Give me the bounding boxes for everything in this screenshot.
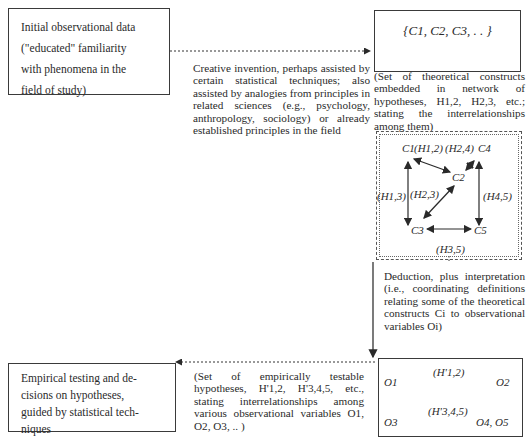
node-c5: C5 [474, 224, 487, 236]
hyp-h24: (H2,4) [445, 142, 474, 154]
node-c2: C2 [452, 171, 465, 183]
deduction-label: Deduction, plus interpretation (i.e., co… [384, 270, 525, 332]
node-c3: C3 [411, 224, 424, 236]
hyp-h35: (H3,5) [436, 243, 465, 255]
node-c4: C4 [478, 142, 491, 154]
hyp-h12: (H1,2) [414, 142, 443, 154]
obs-o45: O4, O5 [476, 416, 508, 428]
initial-data-box: Initial observational data ("educated" f… [8, 8, 170, 95]
empirical-testing-box: Empirical testing and de- cisions on hyp… [8, 363, 176, 432]
empirical-testing-text: Empirical testing and de- cisions on hyp… [9, 364, 175, 438]
hyp-h45: (H4,5) [483, 190, 512, 202]
node-c1: C1 [402, 142, 415, 154]
obs-o1: O1 [384, 376, 397, 388]
initial-data-text: Initial observational data ("educated" f… [9, 9, 169, 101]
obs-o2: O2 [496, 376, 509, 388]
constructs-set-label: {C1, C2, C3, . . } [375, 23, 520, 39]
hyp-h13: (H1,3) [377, 190, 406, 202]
obs-h345: (H'3,4,5) [428, 405, 468, 417]
constructs-caption: (Set of theoretical constructs embedded … [374, 70, 525, 132]
obs-h12: (H'1,2) [433, 366, 464, 378]
obs-o3: O3 [384, 416, 397, 428]
creative-invention-label: Creative invention, perhaps assisted by … [193, 62, 370, 136]
hyp-h23: (H2,3) [410, 188, 439, 200]
testable-hypotheses-label: (Set of empirically testable hypotheses,… [194, 370, 364, 432]
constructs-set-box: {C1, C2, C3, . . } [374, 10, 521, 72]
